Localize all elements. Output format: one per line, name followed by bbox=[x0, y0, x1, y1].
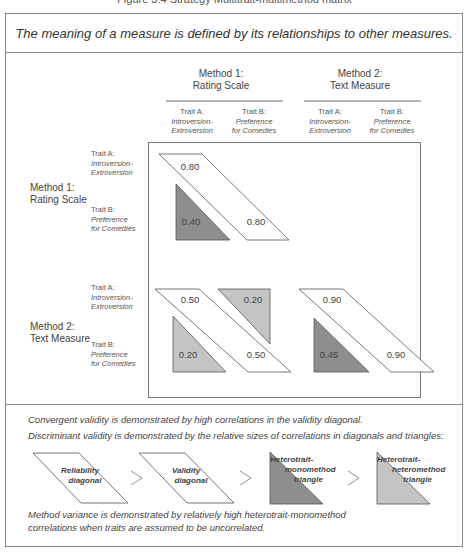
legend-reliability-line2: diagonal bbox=[50, 476, 110, 486]
value-m1-reliability-a: 0.80 bbox=[178, 161, 202, 173]
legend-hetero-mono-label: Heterotrait- monomethod triangle bbox=[270, 455, 340, 485]
legend-reliability-label: Reliability diagonal bbox=[50, 466, 110, 486]
value-validity-b: 0.50 bbox=[244, 349, 268, 361]
convergent-validity-text: Convergent validity is demonstrated by h… bbox=[28, 414, 363, 426]
legend-reliability-line1: Reliability bbox=[50, 466, 110, 476]
value-m2-hetero-mono: 0.45 bbox=[317, 349, 341, 361]
value-validity-a: 0.50 bbox=[178, 294, 202, 306]
legend-validity-line2: diagonal bbox=[156, 476, 216, 486]
method-variance-text-1: Method variance is demonstrated by relat… bbox=[28, 509, 346, 521]
legend-validity-label: Validity diagonal bbox=[156, 466, 216, 486]
value-m2-reliability-b: 0.90 bbox=[384, 349, 408, 361]
value-hetero-hetero-a: 0.20 bbox=[241, 294, 265, 306]
value-hetero-hetero-b: 0.20 bbox=[176, 349, 200, 361]
comparator-3 bbox=[348, 471, 359, 485]
legend-hetero-hetero-label: Heterotrait- heteromethod triangle bbox=[377, 455, 452, 485]
comparator-2 bbox=[240, 471, 251, 485]
legend-hetero-hetero-line1: Heterotrait- bbox=[377, 455, 452, 465]
legend-hetero-hetero-line3: triangle bbox=[377, 475, 452, 485]
value-m1-reliability-b: 0.80 bbox=[244, 216, 268, 228]
legend-hetero-mono-line2: monomethod bbox=[270, 465, 340, 475]
value-m2-reliability-a: 0.90 bbox=[320, 294, 344, 306]
comparator-1 bbox=[131, 471, 142, 485]
legend-hetero-mono-line1: Heterotrait- bbox=[270, 455, 340, 465]
value-m1-hetero-mono: 0.40 bbox=[179, 216, 203, 228]
legend-validity-line1: Validity bbox=[156, 466, 216, 476]
method-variance-text-2: correlations when traits are assumed to … bbox=[28, 522, 265, 534]
legend-hetero-hetero-line2: heteromethod bbox=[377, 465, 452, 475]
legend-hetero-mono-line3: triangle bbox=[270, 475, 340, 485]
discriminant-validity-text: Discriminant validity is demonstrated by… bbox=[28, 430, 444, 442]
